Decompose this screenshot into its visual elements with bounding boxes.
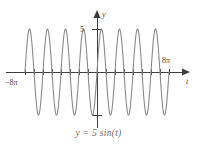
y-axis-arrowhead — [94, 10, 101, 18]
x-tick-label-right: 8π — [162, 56, 170, 65]
x-axis-arrowhead — [182, 69, 190, 76]
x-tick-label-left: −8π — [5, 78, 18, 87]
y-axis-label: y — [101, 10, 106, 19]
x-axis-label: t — [186, 77, 189, 86]
figure-caption: y = 5 sin(t) — [0, 128, 197, 138]
y-tick-label-5: 5 — [80, 25, 84, 34]
sine-wave-figure: y t 5 −8π 8π y = 5 sin(t) — [0, 0, 197, 150]
